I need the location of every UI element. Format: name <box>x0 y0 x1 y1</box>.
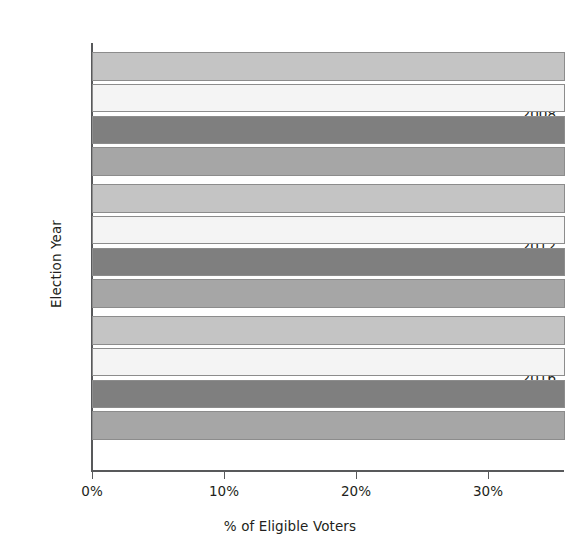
x-axis-tick <box>488 470 489 479</box>
bar <box>92 380 565 409</box>
plot-area <box>92 43 564 470</box>
bar <box>92 279 565 308</box>
x-axis-tick-label: 30% <box>473 483 503 499</box>
y-axis-title: Election Year <box>48 164 64 364</box>
x-axis-tick-label: 0% <box>81 483 102 499</box>
x-axis-tick <box>92 470 93 479</box>
x-axis-line <box>91 470 564 472</box>
x-axis-tick-label: 20% <box>341 483 371 499</box>
bar <box>92 216 565 245</box>
x-axis-tick <box>224 470 225 479</box>
bar <box>92 116 565 145</box>
x-axis-title: % of Eligible Voters <box>92 518 488 534</box>
x-axis-tick <box>356 470 357 479</box>
bar <box>92 316 565 345</box>
bar <box>92 411 565 440</box>
bar <box>92 248 565 277</box>
bar <box>92 147 565 176</box>
x-axis-tick-label: 10% <box>209 483 239 499</box>
bar <box>92 348 565 377</box>
bar <box>92 84 565 113</box>
bar <box>92 184 565 213</box>
bar <box>92 52 565 81</box>
